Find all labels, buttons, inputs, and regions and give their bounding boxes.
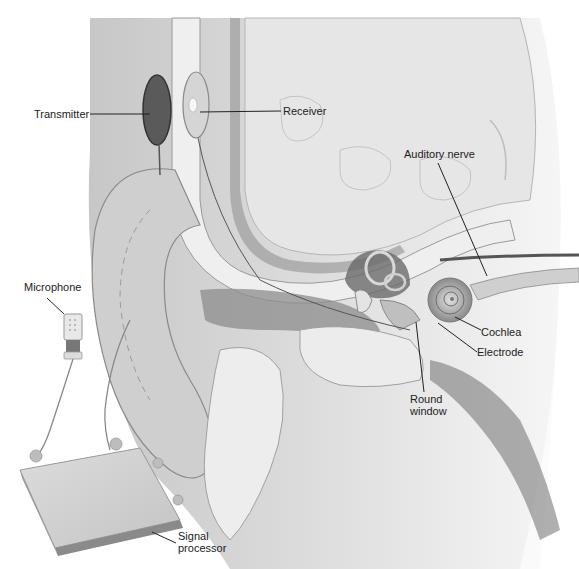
signal-processor-leader — [152, 532, 176, 543]
cochlea — [428, 278, 472, 322]
label-signal-processor-line1: Signal — [178, 530, 226, 542]
microphone-cable — [38, 359, 73, 455]
label-round-window-line2: window — [410, 405, 447, 417]
label-auditory-nerve: Auditory nerve — [404, 148, 475, 160]
transmitter-disc — [143, 75, 171, 145]
label-round-window: Round window — [410, 393, 447, 417]
label-cochlea: Cochlea — [481, 326, 521, 338]
label-transmitter: Transmitter — [34, 108, 89, 120]
label-microphone: Microphone — [24, 281, 81, 293]
label-signal-processor-line2: processor — [178, 542, 226, 554]
microphone-leader — [47, 298, 64, 314]
label-signal-processor: Signal processor — [178, 530, 226, 554]
anatomy-illustration — [0, 0, 579, 569]
label-receiver: Receiver — [283, 105, 326, 117]
label-electrode: Electrode — [477, 346, 523, 358]
cochlear-implant-diagram: Transmitter Receiver Auditory nerve Micr… — [0, 0, 579, 569]
label-round-window-line1: Round — [410, 393, 447, 405]
